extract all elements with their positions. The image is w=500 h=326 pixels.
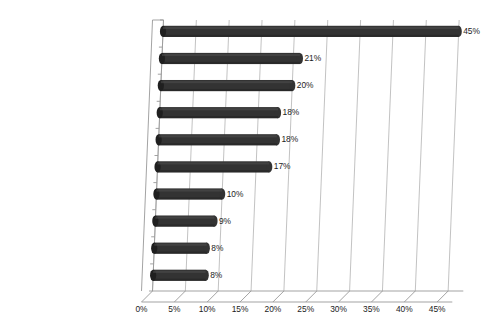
x-tick-label: 25%	[292, 304, 320, 314]
x-tick-label: 20%	[259, 304, 287, 314]
x-tick-label: 15%	[226, 304, 254, 314]
x-tick-label: 10%	[193, 304, 221, 314]
x-axis-ticks: 0%5%10%15%20%25%30%35%40%45%	[0, 0, 500, 326]
x-tick-label: 5%	[160, 304, 188, 314]
x-tick-label: 40%	[390, 304, 418, 314]
bar-chart: Experiencing nature Fresh air Being acti…	[0, 0, 500, 326]
x-tick-label: 35%	[357, 304, 385, 314]
x-tick-label: 45%	[423, 304, 451, 314]
x-tick-label: 30%	[325, 304, 353, 314]
x-tick-label: 0%	[128, 304, 156, 314]
